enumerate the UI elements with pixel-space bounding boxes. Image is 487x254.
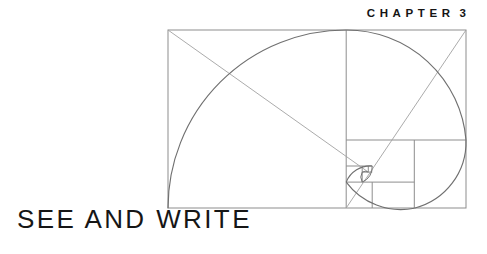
diagonal-from-top-left	[168, 30, 368, 172]
chapter-title: SEE AND WRITE	[17, 204, 252, 234]
spiral-arc-2	[346, 30, 466, 140]
spiral-arc-3	[414, 140, 466, 208]
spiral-arc-1	[168, 30, 346, 208]
chapter-opener-page: CHAPTER3	[0, 0, 487, 254]
spiral-arc-4	[346, 182, 414, 209]
